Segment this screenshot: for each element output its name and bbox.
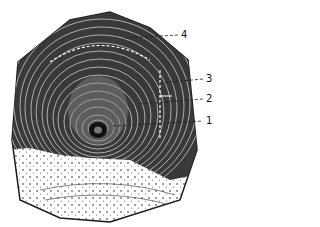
callout-label-4: 4 — [181, 30, 187, 40]
core-nucleus — [89, 122, 107, 138]
callout-label-2: 2 — [206, 94, 212, 104]
callout-label-3: 3 — [206, 74, 212, 84]
callout-label-1: 1 — [206, 116, 212, 126]
